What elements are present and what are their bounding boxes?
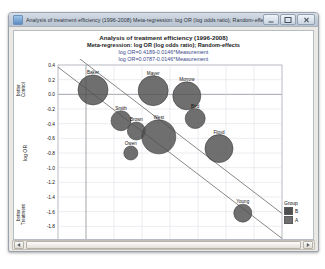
y-tick-label: -0.8: [36, 151, 55, 156]
maximize-icon[interactable]: [280, 14, 296, 25]
y-tick-label: -1.6: [36, 209, 55, 214]
horizontal-scrollbar[interactable]: [12, 240, 315, 250]
plot-svg: [14, 59, 313, 240]
scroll-right-icon[interactable]: [303, 241, 313, 249]
application-window: Analysis of treatment efficiency (1996-2…: [8, 12, 319, 252]
point-label: Morrow: [179, 76, 194, 81]
point-label: Mayer: [147, 70, 160, 75]
plot-area: 0.40.20.0-0.2-0.4-0.6-0.8-1.0-1.2-1.4-1.…: [14, 31, 313, 239]
point-label: Baker: [87, 69, 99, 74]
y-tick-label: -1.4: [36, 195, 55, 200]
point-label: Brown: [130, 117, 143, 122]
y-tick-label: -1.8: [36, 224, 55, 229]
y-tick-label: 0.2: [36, 77, 55, 82]
scrollbar-thumb[interactable]: [26, 241, 301, 249]
scroll-left-icon[interactable]: [14, 241, 24, 249]
app-icon: [13, 15, 23, 25]
y-tick-label: -1.0: [36, 165, 55, 170]
close-icon[interactable]: [297, 14, 315, 25]
legend-item[interactable]: B: [284, 207, 311, 215]
y-axis-note-bottom: better Treatment: [16, 191, 26, 239]
point-label: Young: [236, 199, 249, 204]
legend-title: Group: [284, 200, 311, 206]
y-tick-label: -0.4: [36, 121, 55, 126]
point-label: West: [154, 114, 164, 119]
point-label: Owen: [125, 141, 137, 146]
point-label: Floyd: [213, 129, 224, 134]
chart-canvas: Analysis of treatment efficiency (1996-2…: [13, 30, 314, 240]
y-tick-label: -0.2: [36, 107, 55, 112]
y-tick-label: -1.2: [36, 180, 55, 185]
y-axis-note-top: better Control: [16, 67, 26, 113]
window-title: Analysis of treatment efficiency (1996-2…: [26, 17, 263, 23]
minimize-icon[interactable]: [263, 14, 279, 25]
legend-swatch: [284, 207, 293, 215]
y-tick-label: -0.6: [36, 136, 55, 141]
legend-swatch: [284, 216, 293, 224]
legend: Group BA: [284, 200, 311, 225]
window-titlebar[interactable]: Analysis of treatment efficiency (1996-2…: [9, 13, 318, 27]
point-label: Smith: [115, 105, 127, 110]
y-tick-label: 0.4: [36, 63, 55, 68]
y-tick-label: 0.0: [36, 92, 55, 97]
legend-label: A: [295, 218, 298, 223]
window-controls: [263, 14, 316, 25]
point-label: Bird: [191, 103, 199, 108]
legend-item[interactable]: A: [284, 216, 311, 224]
legend-label: B: [295, 209, 298, 214]
